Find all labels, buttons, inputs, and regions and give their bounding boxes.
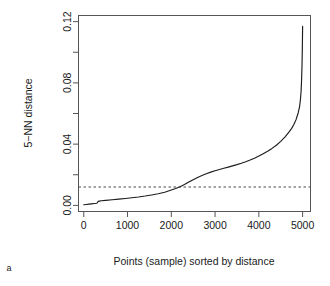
x-axis-title: Points (sample) sorted by distance	[113, 255, 274, 267]
x-tick-label: 0	[81, 219, 87, 231]
x-tick-label: 4000	[247, 219, 271, 231]
figure-panel-a: 010002000300040005000 0.000.040.080.12 5…	[0, 0, 330, 286]
x-tick-label: 5000	[291, 219, 315, 231]
knn-distance-curve	[84, 26, 303, 205]
y-tick-label: 0.04	[61, 134, 73, 155]
y-axis-ticks	[73, 22, 79, 206]
y-axis-title: 5−NN distance	[22, 78, 34, 147]
panel-label: a	[6, 263, 11, 273]
x-tick-label: 2000	[160, 219, 184, 231]
y-tick-label: 0.00	[61, 195, 73, 216]
x-axis-tick-labels: 010002000300040005000	[81, 219, 315, 231]
plot-frame	[79, 16, 311, 212]
x-tick-label: 1000	[116, 219, 140, 231]
y-axis-tick-labels: 0.000.040.080.12	[61, 11, 73, 215]
x-tick-label: 3000	[203, 219, 227, 231]
y-tick-label: 0.08	[61, 72, 73, 93]
y-tick-label: 0.12	[61, 11, 73, 32]
x-axis-ticks	[84, 212, 303, 218]
knn-distance-plot: 010002000300040005000 0.000.040.080.12 5…	[0, 0, 330, 286]
